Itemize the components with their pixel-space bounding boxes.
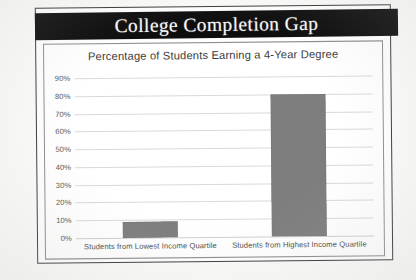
chart-title: Percentage of Students Earning a 4-Year … [44,47,382,62]
y-axis-tick-label: 70% [55,109,71,118]
y-axis-tick-label: 80% [55,92,71,101]
y-axis-tick-label: 40% [56,163,72,172]
gridline [76,235,374,239]
gridline [75,129,373,133]
y-axis-tick-label: 10% [56,216,72,225]
y-axis-tick-label: 0% [61,234,72,243]
plot-area: 0%10%20%30%40%50%60%70%80%90% [74,75,374,238]
y-axis-tick-label: 30% [56,181,72,190]
gridline [75,182,373,186]
x-axis-category-label: Students from Lowest Income Quartile [84,241,217,251]
gridline [74,75,372,79]
bar[interactable] [270,94,326,237]
y-axis-tick-label: 60% [55,127,71,136]
y-axis-tick-label: 50% [55,145,71,154]
page-title: College Completion Gap [114,12,318,36]
y-axis-tick-label: 20% [56,198,72,207]
gridline [75,164,373,168]
gridline [75,147,373,151]
bar[interactable] [123,221,178,238]
gridline [74,93,372,97]
slide-title-banner: College Completion Gap [35,9,398,40]
scanned-page: College Completion Gap Percentage of Stu… [0,0,416,280]
x-axis-category-label: Students from Highest Income Quartile [232,240,367,250]
chart-container: Percentage of Students Earning a 4-Year … [43,40,385,259]
gridline [76,218,374,222]
x-axis-labels: Students from Lowest Income QuartileStud… [76,239,374,258]
gridline [76,200,374,204]
y-axis-tick-label: 90% [55,74,71,83]
gridline [75,111,373,115]
